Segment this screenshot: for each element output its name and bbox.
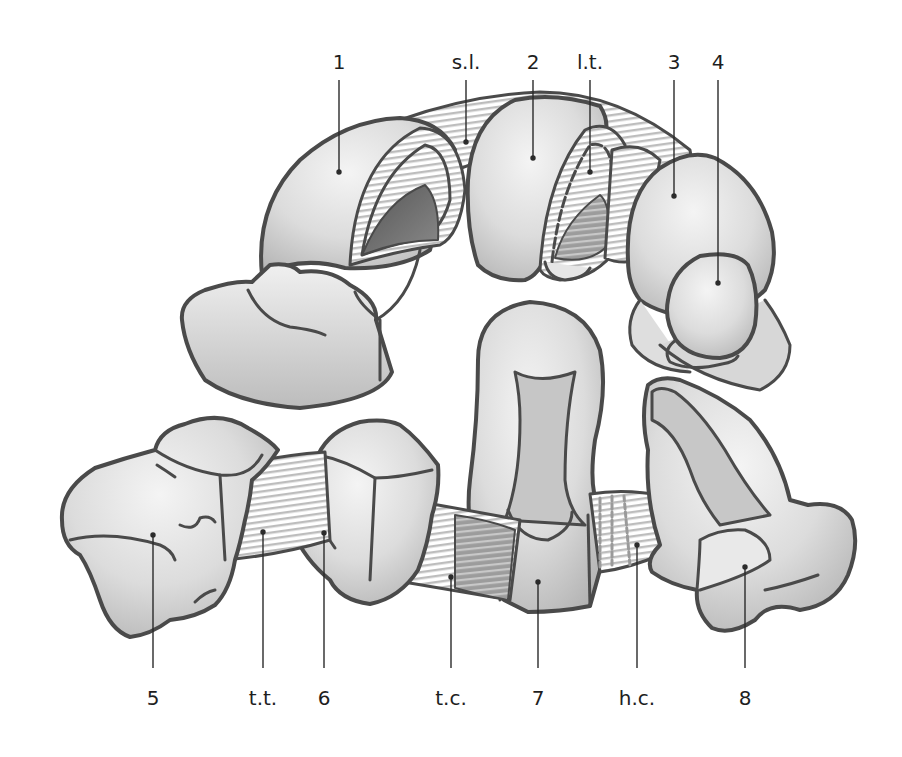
label-2-lunate: 2 [527,52,540,72]
label-lt-lunotriquetral-ligament: l.t. [577,52,603,72]
label-tc-trapeziocapitate-ligament: t.c. [435,688,467,708]
label-4-pisiform: 4 [712,52,725,72]
label-sl-scapholunate-ligament: s.l. [452,52,481,72]
label-3-triquetrum: 3 [668,52,681,72]
label-tt-trapeziotrapezoid-ligament: t.t. [249,688,277,708]
label-hc-capitohamate-ligament: h.c. [619,688,655,708]
label-6-trapezoid: 6 [318,688,331,708]
carpal-bones-diagram: 1 s.l. 2 l.t. 3 4 5 t.t. 6 t.c. 7 h.c. 8 [0,0,902,757]
label-5-trapezium: 5 [147,688,160,708]
label-1-scaphoid: 1 [333,52,346,72]
diagram-artwork [0,0,902,757]
label-8-hamate: 8 [739,688,752,708]
label-7-capitate: 7 [532,688,545,708]
